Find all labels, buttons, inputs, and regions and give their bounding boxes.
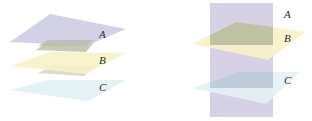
- left-panel: A B C: [10, 14, 126, 101]
- label-b-right: B: [284, 32, 291, 44]
- label-c-right: C: [284, 74, 292, 86]
- label-c-left: C: [99, 81, 107, 93]
- label-a-right: A: [283, 8, 291, 20]
- plane-b-left: [10, 52, 126, 74]
- label-a-left: A: [98, 28, 106, 40]
- plane-c-left: [10, 80, 126, 101]
- label-b-left: B: [99, 54, 106, 66]
- diagram-canvas: A B C A B C: [0, 0, 312, 121]
- right-panel: A B C: [192, 3, 306, 117]
